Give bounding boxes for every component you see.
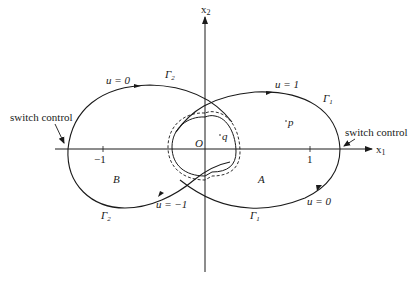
phase-plane-diagram: x1 x2 O −1 1 u = 0 Γ2 u = 1 Γ1 switch co… [0,0,420,286]
gamma1-trajectory [176,92,340,208]
arrow-um1-bottom [158,191,164,197]
gamma2-top-label: Γ2 [164,68,175,82]
u1-top-label: u = 1 [275,78,299,90]
tick-label-minus-1: −1 [94,153,106,165]
switch-control-left-pointer [55,124,64,143]
point-q [219,134,221,136]
switch-control-right-pointer [344,139,355,146]
x1-axis-label: x1 [376,143,386,157]
inner-limit-curve [172,116,236,176]
u0-bottom-label: u = 0 [307,195,331,207]
point-p-label: p [287,116,294,128]
tick-label-1: 1 [307,153,313,165]
switch-control-right-label: switch control [345,126,408,138]
um1-bottom-label: u = −1 [156,198,187,210]
origin-label: O [195,137,203,149]
point-q-label: q [222,130,228,142]
gamma2-bottom-label: Γ2 [100,209,111,223]
gamma1-top-label: Γ1 [322,92,333,106]
gamma1-bottom-label: Γ1 [249,209,260,223]
inner-dashed-curve [168,112,240,180]
arrow-u1-top [266,91,273,95]
region-A-label: A [257,173,265,185]
switch-control-left-label: switch control [10,111,73,123]
region-B-label: B [113,173,120,185]
u0-top-label: u = 0 [106,74,130,86]
x2-axis-label: x2 [201,3,211,17]
point-p [285,120,287,122]
gamma2-trajectory [68,85,232,208]
arrow-u0-top [134,84,141,88]
